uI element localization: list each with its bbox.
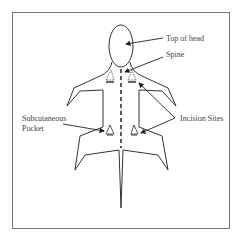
arrow-subcutaneous-pocket — [63, 124, 104, 131]
incision-site-lower-right — [131, 125, 138, 134]
label-subcutaneous-line1: Subcutaneous — [22, 114, 66, 123]
arrow-incision-lower — [141, 118, 175, 133]
label-spine: Spine — [166, 50, 184, 59]
arrow-incision-upper — [139, 83, 175, 118]
incision-site-lower-left — [106, 125, 114, 134]
label-subcutaneous-line2: Pocket — [22, 124, 44, 133]
label-top-of-head: Top of head — [166, 34, 204, 43]
label-incision-sites: Incision Sites — [180, 114, 223, 123]
arrow-top-of-head — [126, 38, 163, 44]
head-ellipse — [109, 25, 133, 67]
diagram-canvas: Top of head Spine Subcutaneous Pocket In… — [0, 0, 242, 240]
body-outline-right — [121, 62, 176, 208]
